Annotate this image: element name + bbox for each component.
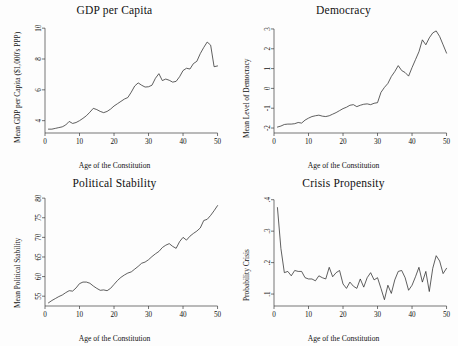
y-tick-label: 10 <box>35 24 43 32</box>
y-tick-label: 3 <box>264 27 272 31</box>
x-tick-label: 20 <box>339 311 347 319</box>
x-tick-label: 10 <box>76 311 84 319</box>
x-tick-label: 50 <box>443 311 451 319</box>
x-tick-label: 20 <box>110 311 118 319</box>
x-tick-label: 30 <box>374 138 382 146</box>
y-tick-label: 0 <box>264 86 272 90</box>
y-tick-label: 4 <box>35 118 43 122</box>
panel-gdp-per-capita: GDP per Capita Mean GDP per Capita ($1,0… <box>0 0 229 173</box>
y-tick-label: -1 <box>264 105 272 111</box>
x-tick-label: 0 <box>272 138 276 146</box>
x-axis-label-gdp: Age of the Constitution <box>0 161 229 170</box>
x-tick-label: 40 <box>179 311 187 319</box>
x-tick-label: 10 <box>76 138 84 146</box>
panel-democracy: Democracy Mean Level of Democracy -2-101… <box>229 0 458 173</box>
x-tick-label: 10 <box>305 138 313 146</box>
plot-area-crisis-propensity: .1.2.3.401020304050 <box>229 173 458 346</box>
x-tick-label: 40 <box>179 138 187 146</box>
x-tick-label: 50 <box>443 138 451 146</box>
y-tick-label: .3 <box>264 228 272 234</box>
y-tick-label: 80 <box>35 194 43 202</box>
x-tick-label: 10 <box>305 311 313 319</box>
x-tick-label: 50 <box>214 138 222 146</box>
x-tick-label: 0 <box>272 311 276 319</box>
y-tick-label: 1 <box>264 66 272 70</box>
data-series-line <box>277 31 446 127</box>
plot-area-political-stability: 55606570758001020304050 <box>0 173 229 346</box>
plot-area-democracy: -2-1012301020304050 <box>229 0 458 173</box>
y-tick-label: 65 <box>35 253 43 261</box>
x-axis-label-crisis-propensity: Age of the Constitution <box>229 334 458 343</box>
x-tick-label: 40 <box>408 311 416 319</box>
x-tick-label: 0 <box>43 311 47 319</box>
x-tick-label: 30 <box>145 311 153 319</box>
data-series-line <box>48 42 217 129</box>
y-tick-label: 70 <box>35 233 43 241</box>
x-tick-label: 30 <box>145 138 153 146</box>
data-series-line <box>48 206 217 303</box>
x-axis-label-political-stability: Age of the Constitution <box>0 334 229 343</box>
x-tick-label: 30 <box>374 311 382 319</box>
y-tick-label: -2 <box>264 125 272 131</box>
y-tick-label: 60 <box>35 273 43 281</box>
y-tick-label: 2 <box>264 47 272 51</box>
y-tick-label: .1 <box>264 291 272 297</box>
x-tick-label: 40 <box>408 138 416 146</box>
y-tick-label: .2 <box>264 260 272 266</box>
figure-container: GDP per Capita Mean GDP per Capita ($1,0… <box>0 0 458 346</box>
x-tick-label: 20 <box>339 138 347 146</box>
y-tick-label: 75 <box>35 214 43 222</box>
x-axis-label-democracy: Age of the Constitution <box>229 161 458 170</box>
y-tick-label: 55 <box>35 292 43 300</box>
x-tick-label: 20 <box>110 138 118 146</box>
data-series-line <box>277 208 446 300</box>
x-tick-label: 50 <box>214 311 222 319</box>
plot-area-gdp: 4681001020304050 <box>0 0 229 173</box>
panel-political-stability: Political Stability Mean Political Stabi… <box>0 173 229 346</box>
x-tick-label: 0 <box>43 138 47 146</box>
y-tick-label: .4 <box>264 197 272 203</box>
panel-crisis-propensity: Crisis Propensity Probability Crisis .1.… <box>229 173 458 346</box>
y-tick-label: 6 <box>35 88 43 92</box>
y-tick-label: 8 <box>35 57 43 61</box>
